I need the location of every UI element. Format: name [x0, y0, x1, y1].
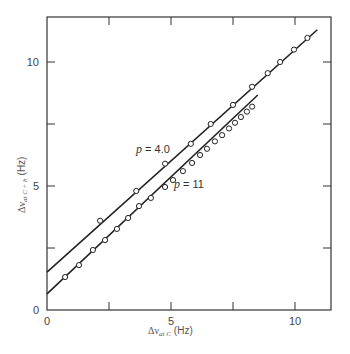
data-point-marker [148, 195, 153, 200]
data-point-marker [305, 35, 310, 40]
data-point-marker [212, 139, 217, 144]
data-point-marker [232, 120, 237, 125]
data-point-marker [134, 188, 139, 193]
data-point-marker [188, 141, 193, 146]
y-tick-label: 0 [33, 304, 39, 316]
data-point-marker [63, 274, 68, 279]
data-point-marker [114, 226, 119, 231]
data-point-marker [125, 215, 130, 220]
data-point-marker [230, 102, 235, 107]
data-point-marker [162, 161, 167, 166]
data-point-marker [244, 109, 249, 114]
data-point-marker [136, 203, 141, 208]
data-point-marker [226, 126, 231, 131]
data-point-marker [278, 59, 283, 64]
axis-ticks: 05100510 [27, 17, 331, 327]
data-point-marker [189, 160, 194, 165]
data-point-marker [265, 71, 270, 76]
data-point-marker [208, 121, 213, 126]
data-point-marker [102, 237, 107, 242]
data-point-marker [238, 114, 243, 119]
y-tick-label: 10 [27, 56, 39, 68]
data-point-marker [97, 218, 102, 223]
data-point-marker [197, 152, 202, 157]
fit-line [47, 30, 317, 272]
data-point-marker [291, 47, 296, 52]
data-point-marker [204, 146, 209, 151]
x-tick-label: 10 [289, 315, 301, 327]
y-axis-label: Δνat C + h(Hz) [16, 157, 29, 213]
data-point-marker [180, 169, 185, 174]
series-label-p11: p = 11 [173, 177, 204, 191]
data-point-marker [76, 263, 81, 268]
chart: 05100510 p = 4.0 p = 11 Δνat C(Hz) Δνat … [0, 0, 350, 354]
data-point-marker [162, 184, 167, 189]
data-point-marker [249, 104, 254, 109]
x-tick-label: 0 [44, 315, 50, 327]
series-label-p4: p = 4.0 [135, 142, 170, 156]
data-point-marker [219, 133, 224, 138]
plot-frame [47, 17, 331, 310]
data-points [63, 35, 310, 279]
data-point-marker [249, 84, 254, 89]
fit-lines [47, 30, 317, 294]
y-tick-label: 5 [33, 180, 39, 192]
data-point-marker [90, 247, 95, 252]
